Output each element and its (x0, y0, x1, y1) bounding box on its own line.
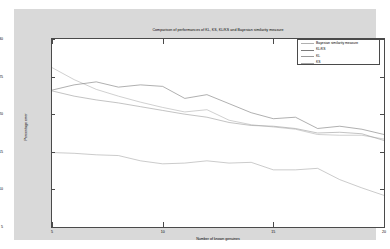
y-tick-mark (380, 227, 384, 228)
y-tick-label: 15 (0, 150, 3, 154)
y-axis-label: Percentage error (24, 97, 28, 157)
x-tick-mark (52, 222, 53, 227)
y-tick-label: 25 (0, 75, 3, 79)
legend-line-swatch (301, 63, 314, 64)
x-tick-mark (384, 39, 385, 44)
series-line (52, 68, 384, 139)
y-tick-label: 10 (0, 187, 3, 191)
series-line (52, 82, 384, 135)
chart-title: Comparison of performances of KL, KS, KL… (51, 28, 385, 32)
legend-line-swatch (301, 56, 314, 57)
legend-item[interactable]: KS (298, 60, 379, 66)
series-lines (52, 39, 384, 227)
x-tick-mark (163, 39, 164, 44)
legend-label: KL/KS (316, 47, 326, 51)
legend-item[interactable]: KL/KS (298, 47, 379, 53)
x-tick-mark (163, 222, 164, 227)
y-tick-mark (51, 77, 55, 78)
y-tick-mark (380, 77, 384, 78)
x-axis-label: Number of known genuines (51, 237, 385, 241)
legend-item[interactable]: Bayesian similarity measure (298, 40, 379, 46)
y-tick-mark (51, 114, 55, 115)
figure-background: Comparison of performances of KL, KS, KL… (14, 9, 376, 240)
legend-item[interactable]: KL (298, 53, 379, 59)
legend-label: KL (316, 54, 320, 58)
series-line (52, 91, 384, 141)
y-tick-mark (380, 114, 384, 115)
x-tick-mark (384, 222, 385, 227)
legend-label: KS (316, 60, 321, 64)
x-tick-mark (52, 39, 53, 44)
x-tick-mark (273, 39, 274, 44)
y-tick-mark (51, 152, 55, 153)
y-tick-mark (380, 152, 384, 153)
y-tick-mark (51, 227, 55, 228)
y-tick-mark (51, 189, 55, 190)
x-tick-label: 15 (263, 230, 283, 234)
y-tick-label: 5 (0, 225, 3, 229)
plot-area (51, 38, 385, 228)
x-tick-label: 10 (153, 230, 173, 234)
legend-line-swatch (301, 50, 314, 51)
y-tick-label: 30 (0, 37, 3, 41)
series-line (52, 153, 384, 196)
legend[interactable]: Bayesian similarity measureKL/KSKLKS (297, 39, 380, 65)
legend-line-swatch (301, 43, 314, 44)
y-tick-label: 20 (0, 112, 3, 116)
x-tick-mark (273, 222, 274, 227)
y-tick-mark (380, 189, 384, 190)
legend-label: Bayesian similarity measure (316, 41, 358, 45)
x-tick-label: 20 (374, 230, 390, 234)
x-tick-label: 5 (42, 230, 62, 234)
